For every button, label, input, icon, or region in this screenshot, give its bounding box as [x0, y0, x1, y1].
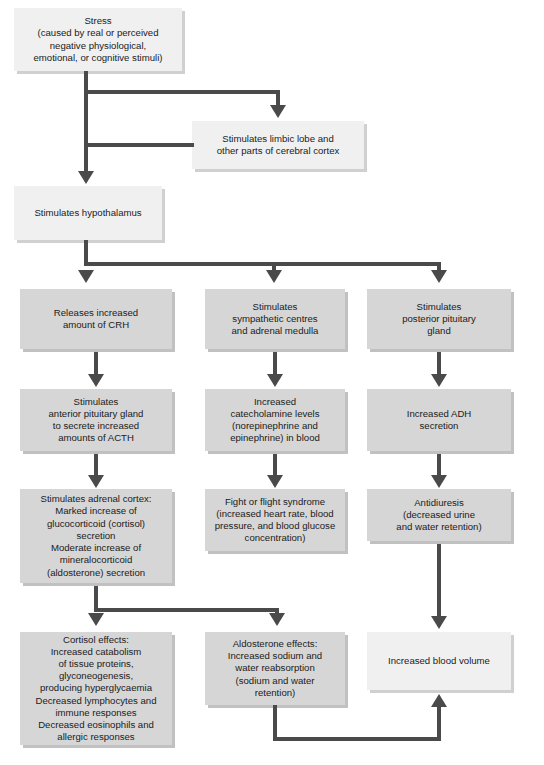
arrow-anterior-to-adrenal	[88, 475, 104, 488]
node-antidiuresis: Antidiuresis (decreased urine and water …	[367, 489, 511, 541]
arrow-to-sympathetic	[266, 270, 282, 283]
connector-adrenal-bus	[94, 608, 279, 612]
connector-anterior-to-adrenal	[94, 454, 98, 477]
connector-stress-trunk	[84, 71, 88, 173]
connector-crh-to-anterior	[94, 352, 98, 376]
node-adh: Increased ADH secretion	[367, 389, 511, 451]
node-limbic-lobe-label: Stimulates limbic lobe and other parts o…	[197, 133, 359, 157]
node-sympathetic-centres-label: Stimulates sympathetic centres and adren…	[210, 301, 340, 338]
node-crh-label: Releases increased amount of CRH	[25, 307, 167, 331]
connector-stress-to-limbic-h	[84, 90, 278, 94]
node-stress-label: Stress (caused by real or perceived nega…	[19, 15, 177, 64]
connector-aldosterone-down	[273, 705, 277, 741]
arrow-adh-to-antidiuresis	[431, 475, 447, 488]
arrow-to-posterior-pituitary	[431, 270, 447, 283]
connector-sympathetic-to-catecholamine	[273, 352, 277, 376]
arrow-crh-to-anterior	[88, 374, 104, 387]
node-anterior-pituitary-label: Stimulates anterior pituitary gland to s…	[25, 396, 167, 445]
arrow-to-crh	[78, 270, 94, 283]
node-anterior-pituitary: Stimulates anterior pituitary gland to s…	[20, 389, 172, 451]
node-sympathetic-centres: Stimulates sympathetic centres and adren…	[205, 289, 345, 349]
node-adh-label: Increased ADH secretion	[372, 408, 506, 432]
node-cortisol-effects-label: Cortisol effects: Increased catabolism o…	[25, 634, 167, 744]
connector-hypothalamus-to-posterior-v	[437, 262, 441, 270]
node-crh: Releases increased amount of CRH	[20, 289, 172, 349]
node-catecholamine-label: Increased catecholamine levels (norepine…	[210, 396, 340, 445]
connector-adh-to-antidiuresis	[437, 454, 441, 477]
node-cortisol-effects: Cortisol effects: Increased catabolism o…	[20, 632, 172, 745]
arrow-aldosterone-to-blood-volume	[431, 694, 447, 707]
node-aldosterone-effects: Aldosterone effects: Increased sodium an…	[205, 632, 345, 705]
arrow-antidiuresis-to-blood-volume	[431, 616, 447, 629]
node-stress: Stress (caused by real or perceived nega…	[14, 8, 182, 71]
node-limbic-lobe: Stimulates limbic lobe and other parts o…	[192, 121, 364, 169]
node-posterior-pituitary-label: Stimulates posterior pituitary gland	[372, 301, 506, 338]
node-catecholamine: Increased catecholamine levels (norepine…	[205, 389, 345, 451]
connector-aldosterone-across	[273, 737, 441, 741]
arrow-posterior-to-adh	[431, 374, 447, 387]
connector-posterior-to-adh	[437, 352, 441, 376]
node-adrenal-cortex-label: Stimulates adrenal cortex: Marked increa…	[25, 493, 167, 578]
node-fight-or-flight: Fight or flight syndrome (increased hear…	[205, 489, 345, 551]
arrow-catecholamine-to-fight	[267, 475, 283, 488]
arrow-stress-to-limbic	[270, 105, 286, 118]
flowchart-canvas: Stress (caused by real or perceived nega…	[0, 0, 544, 765]
node-aldosterone-effects-label: Aldosterone effects: Increased sodium an…	[210, 638, 340, 699]
node-posterior-pituitary: Stimulates posterior pituitary gland	[367, 289, 511, 349]
connector-antidiuresis-to-blood-volume	[437, 544, 441, 619]
node-hypothalamus-label: Stimulates hypothalamus	[19, 207, 157, 219]
arrow-to-hypothalamus	[78, 171, 94, 184]
connector-limbic-to-trunk	[84, 143, 194, 147]
node-adrenal-cortex: Stimulates adrenal cortex: Marked increa…	[20, 489, 172, 583]
connector-catecholamine-to-fight	[273, 454, 277, 477]
connector-aldosterone-up	[437, 707, 441, 739]
arrow-to-aldosterone-effects	[269, 613, 285, 626]
arrow-sympathetic-to-catecholamine	[267, 374, 283, 387]
connector-hypothalamus-bus	[84, 262, 441, 266]
node-antidiuresis-label: Antidiuresis (decreased urine and water …	[372, 497, 506, 534]
node-hypothalamus: Stimulates hypothalamus	[14, 186, 162, 240]
arrow-to-cortisol-effects	[88, 613, 104, 626]
node-increased-blood-volume-label: Increased blood volume	[372, 655, 506, 667]
node-increased-blood-volume: Increased blood volume	[367, 632, 511, 690]
connector-hypothalamus-to-sympathetic-v	[272, 262, 276, 270]
node-fight-or-flight-label: Fight or flight syndrome (increased hear…	[210, 496, 340, 545]
